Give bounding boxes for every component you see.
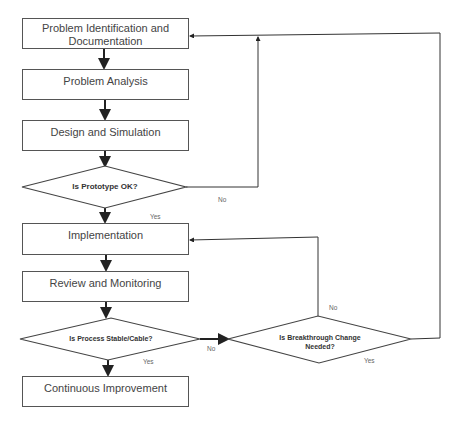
box-design-simulation: Design and Simulation — [22, 120, 189, 151]
flowchart-connectors — [0, 0, 456, 427]
box-label: Design and Simulation — [50, 125, 160, 139]
label-breakthrough-no: No — [329, 304, 337, 311]
box-label: Implementation — [68, 228, 143, 242]
decision-process-stable-label: Is Process Stable/Cable? — [55, 334, 167, 344]
box-implementation: Implementation — [22, 223, 189, 255]
box-continuous-improvement: Continuous Improvement — [22, 376, 189, 407]
arrow-breakthrough-no — [190, 237, 318, 316]
decision-prototype-ok-label: Is Prototype OK? — [55, 182, 155, 192]
box-problem-identification: Problem Identification and Documentation — [22, 18, 189, 49]
label-prototype-no: No — [218, 196, 226, 203]
label-breakthrough-yes: Yes — [364, 357, 375, 364]
box-review-monitoring: Review and Monitoring — [22, 271, 189, 302]
arrow-prototype-no — [186, 37, 258, 187]
box-label: Problem Identification and Documentation — [23, 22, 188, 48]
decision-breakthrough-label: Is Breakthrough Change Needed? — [270, 333, 370, 351]
box-label: Problem Analysis — [63, 74, 147, 88]
box-label: Review and Monitoring — [50, 276, 162, 290]
box-problem-analysis: Problem Analysis — [22, 69, 189, 100]
label-process-no: No — [207, 345, 215, 352]
label-prototype-yes: Yes — [150, 213, 161, 220]
label-process-yes: Yes — [143, 358, 154, 365]
box-label: Continuous Improvement — [44, 381, 167, 395]
arrow-breakthrough-yes — [190, 33, 440, 339]
